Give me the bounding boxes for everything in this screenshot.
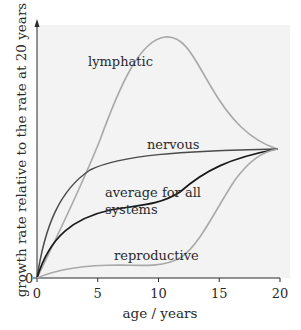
x-tick-label-20: 20 [272, 286, 289, 301]
label-average-line1: average for all [105, 185, 201, 200]
label-lymphatic: lymphatic [88, 54, 153, 69]
x-axis-title: age / years [123, 305, 198, 321]
label-reproductive: reproductive [114, 248, 199, 263]
y-axis-arrow-icon [35, 19, 40, 27]
growth-rate-chart: lymphatic nervous average for all system… [0, 0, 301, 330]
x-tick-label-5: 5 [94, 286, 102, 301]
x-tick-label-15: 15 [211, 286, 228, 301]
label-average-line2: systems [105, 202, 158, 217]
x-tick-label-0: 0 [33, 286, 41, 301]
x-tick-label-10: 10 [150, 286, 167, 301]
label-nervous: nervous [147, 137, 200, 152]
y-axis-title: growth rate relative to the rate at 20 y… [13, 3, 29, 298]
